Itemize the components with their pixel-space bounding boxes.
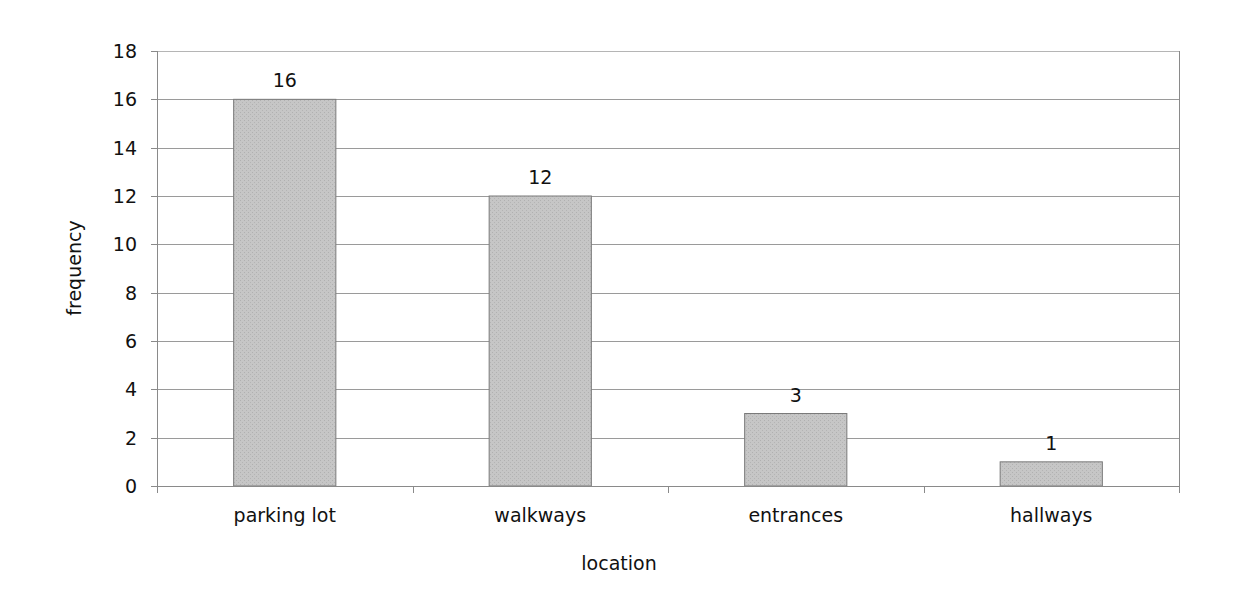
x-tick-label: entrances: [696, 506, 896, 525]
y-axis-title: frequency: [63, 220, 85, 315]
bar-hallways: [1000, 462, 1102, 486]
y-tick-label: 10: [97, 235, 137, 254]
y-tick-label: 12: [97, 187, 137, 206]
y-tick-label: 14: [97, 139, 137, 158]
y-tick-label: 18: [97, 42, 137, 61]
x-axis-title: location: [581, 552, 656, 574]
y-tick-label: 0: [97, 477, 137, 496]
y-tick-label: 4: [97, 380, 137, 399]
bars: [234, 99, 1103, 486]
bar-entrances: [745, 414, 847, 487]
data-label: 16: [255, 71, 315, 90]
x-tick-label: walkways: [440, 506, 640, 525]
x-tick-label: hallways: [951, 506, 1151, 525]
y-tick-label: 8: [97, 284, 137, 303]
data-label: 3: [766, 386, 826, 405]
x-tick-label: parking lot: [185, 506, 385, 525]
y-tick-label: 2: [97, 429, 137, 448]
data-label: 1: [1021, 434, 1081, 453]
data-label: 12: [510, 168, 570, 187]
bar-parking-lot: [234, 99, 336, 486]
bar-walkways: [489, 196, 591, 486]
y-tick-label: 16: [97, 90, 137, 109]
y-tick-label: 6: [97, 332, 137, 351]
